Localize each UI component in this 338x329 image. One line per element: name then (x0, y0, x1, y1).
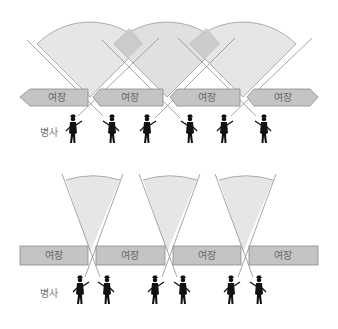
fire-cone-2 (143, 176, 197, 252)
soldier-icon (66, 115, 82, 144)
wall-label: 여장 (48, 92, 66, 103)
wall-label: 여장 (198, 92, 216, 103)
wall-label: 여장 (274, 92, 292, 103)
soldier-label: 병사 (40, 288, 58, 299)
diagram-canvas: 여장 여장 여장 여장 병사 (0, 0, 338, 329)
wall-label: 여장 (198, 250, 216, 261)
soldier-icon (140, 115, 156, 144)
wall-label: 여장 (121, 92, 139, 103)
soldier-icon (103, 115, 119, 144)
soldier-icon (250, 276, 266, 305)
top-diagram: 여장 여장 여장 여장 병사 (20, 22, 318, 143)
soldier-icon (148, 276, 164, 305)
fire-cone-1 (66, 176, 120, 252)
soldier-icon (181, 115, 197, 144)
wall-label: 여장 (45, 250, 63, 261)
soldier-icon (255, 115, 271, 144)
soldier-icon (98, 276, 114, 305)
wall-label: 여장 (121, 250, 139, 261)
soldier-icon (217, 115, 233, 144)
soldier-icon (174, 276, 190, 305)
soldier-icon (73, 276, 89, 305)
soldiers-top (66, 115, 271, 144)
soldier-label: 병사 (40, 127, 58, 138)
bottom-diagram: 여장 여장 여장 여장 병사 (20, 174, 318, 304)
wall-label: 여장 (274, 250, 292, 261)
soldiers-bottom (73, 276, 266, 305)
fire-cone-3 (219, 176, 273, 252)
soldier-icon (224, 276, 240, 305)
